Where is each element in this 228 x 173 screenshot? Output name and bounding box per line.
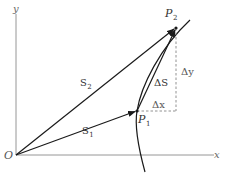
vector-s1-label: S1 [82,126,94,136]
vector-s2-label: S2 [80,78,92,88]
point-p1-label: P1 [138,114,150,125]
vector-delta-s-label: ΔS [154,78,168,88]
diagram-canvas [0,0,228,173]
point-p1-letter: P [138,113,145,126]
x-axis-label: x [214,150,220,160]
delta-y-label: Δy [181,67,194,77]
point-p2-label: P2 [165,8,177,19]
point-p1-subscript: 1 [146,120,150,128]
vector-s1-arrow [16,112,135,156]
vector-s1-letter: S [82,125,89,136]
vector-s1-subscript: 1 [89,131,93,139]
y-axis-label: y [13,4,19,14]
delta-x-label: Δx [152,100,165,110]
point-p2-letter: P [165,7,172,20]
point-p2-subscript: 2 [173,14,177,22]
point-p2-dot [174,26,177,29]
vector-s2-arrow [16,29,174,155]
vector-s2-subscript: 2 [87,83,91,91]
vector-s2-letter: S [80,77,87,88]
origin-label: O [4,150,13,161]
